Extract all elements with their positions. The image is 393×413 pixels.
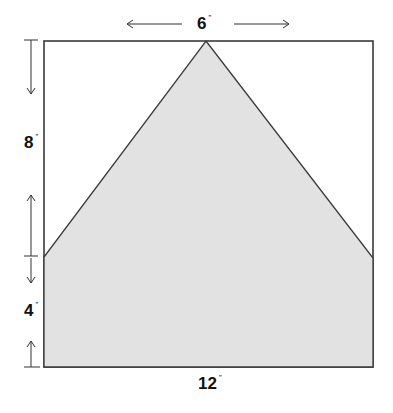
inch-mark: ”: [208, 13, 211, 22]
top-width-value: 6: [197, 14, 206, 33]
upper-height-value: 8: [24, 133, 33, 152]
inch-mark: ”: [219, 373, 222, 382]
pattern-diagram: [0, 0, 393, 413]
bottom-width-value: 12: [198, 374, 217, 393]
inch-mark: ”: [35, 132, 38, 141]
upper-height-label: 8”: [24, 134, 38, 151]
bottom-width-label: 12”: [198, 375, 222, 392]
top-width-label: 6”: [197, 15, 211, 32]
inch-mark: ”: [35, 300, 38, 309]
lower-height-label: 4”: [24, 302, 38, 319]
lower-height-value: 4: [24, 301, 33, 320]
shaded-pentagon: [44, 41, 373, 367]
